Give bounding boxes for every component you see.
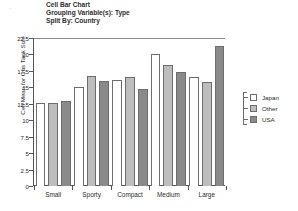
legend-item-other[interactable]: Other bbox=[250, 103, 279, 114]
bar-large-other[interactable] bbox=[202, 82, 212, 186]
y-tick-mark bbox=[29, 71, 33, 72]
y-tick-mark bbox=[29, 137, 33, 138]
chart-title: Cell Bar Chart bbox=[46, 1, 130, 9]
x-tick-mark bbox=[188, 186, 189, 190]
x-tick-mark bbox=[226, 186, 227, 190]
legend-item-usa[interactable]: USA bbox=[250, 114, 279, 125]
bar-compact-japan[interactable] bbox=[112, 80, 122, 186]
stray-speck: · bbox=[9, 5, 12, 8]
chart-title-block: Cell Bar Chart Grouping Variable(s): Typ… bbox=[46, 1, 130, 26]
bar-small-other[interactable] bbox=[48, 103, 58, 186]
legend-tick bbox=[243, 119, 248, 120]
y-tick-mark bbox=[29, 186, 33, 187]
legend-label-japan: Japan bbox=[262, 94, 279, 101]
x-tick-label-compact: Compact bbox=[117, 191, 143, 198]
bar-sporty-other[interactable] bbox=[87, 76, 97, 187]
x-tick-mark bbox=[72, 186, 73, 190]
legend: JapanOtherUSA bbox=[250, 92, 279, 125]
legend-swatch-usa bbox=[250, 116, 257, 123]
bar-small-usa[interactable] bbox=[61, 101, 71, 187]
x-tick-label-sporty: Sporty bbox=[82, 191, 100, 198]
y-tick-mark bbox=[29, 54, 33, 55]
bar-medium-other[interactable] bbox=[163, 65, 173, 186]
x-tick-mark bbox=[111, 186, 112, 190]
legend-swatch-japan bbox=[250, 94, 257, 101]
y-tick-mark bbox=[29, 38, 33, 39]
bar-compact-usa[interactable] bbox=[138, 89, 148, 186]
x-tick-label-small: Small bbox=[45, 191, 61, 198]
bar-large-usa[interactable] bbox=[215, 46, 225, 186]
bar-sporty-japan[interactable] bbox=[74, 87, 84, 186]
x-tick-label-large: Large bbox=[199, 191, 215, 198]
bar-group bbox=[111, 38, 149, 186]
x-tick-mark bbox=[34, 186, 35, 190]
y-tick-mark bbox=[29, 153, 33, 154]
bar-compact-other[interactable] bbox=[125, 77, 135, 186]
x-tick-label-medium: Medium bbox=[157, 191, 180, 198]
split-by-label: Split By: Country bbox=[46, 17, 130, 25]
bar-series-container bbox=[34, 38, 225, 186]
legend-label-usa: USA bbox=[262, 116, 275, 123]
bar-medium-usa[interactable] bbox=[176, 72, 186, 186]
bar-group bbox=[149, 38, 187, 186]
chart-canvas: · Cell Bar Chart Grouping Variable(s): T… bbox=[0, 0, 298, 211]
bar-small-japan[interactable] bbox=[36, 103, 46, 186]
grouping-variable-label: Grouping Variable(s): Type bbox=[46, 9, 130, 17]
y-tick-mark bbox=[29, 104, 33, 105]
y-tick-mark bbox=[29, 170, 33, 171]
bar-group bbox=[34, 38, 72, 186]
bar-medium-japan[interactable] bbox=[151, 54, 161, 186]
bar-large-japan[interactable] bbox=[189, 77, 199, 186]
y-tick-mark bbox=[29, 120, 33, 121]
legend-swatch-other bbox=[250, 105, 257, 112]
bar-group bbox=[188, 38, 226, 186]
x-tick-mark bbox=[149, 186, 150, 190]
legend-item-japan[interactable]: Japan bbox=[250, 92, 279, 103]
bar-sporty-usa[interactable] bbox=[99, 81, 109, 186]
legend-tick bbox=[243, 108, 248, 109]
bar-group bbox=[72, 38, 110, 186]
legend-tick bbox=[243, 97, 248, 98]
y-tick-mark bbox=[29, 87, 33, 88]
legend-label-other: Other bbox=[262, 105, 277, 112]
